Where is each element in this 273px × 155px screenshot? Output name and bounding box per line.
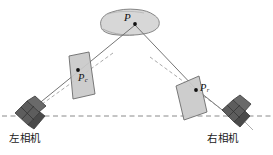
left-image-point-label: Pc: [78, 72, 88, 83]
right-image-point-label: Pr: [200, 82, 209, 93]
object-point-marker: [133, 22, 137, 26]
left-camera-label: 左相机: [9, 130, 41, 145]
left-camera-icon: [15, 96, 46, 129]
right-image-point-marker: [194, 88, 198, 92]
stereo-vision-diagram: P Pc Pr 左相机 右相机: [0, 0, 273, 155]
right-image-point-subscript: r: [206, 86, 209, 93]
right-projection-ray-upper: [135, 25, 196, 89]
left-image-point-subscript: c: [84, 76, 87, 83]
right-camera-label: 右相机: [207, 130, 239, 145]
object-point-label: P: [124, 11, 131, 23]
right-camera-icon: [222, 95, 253, 130]
